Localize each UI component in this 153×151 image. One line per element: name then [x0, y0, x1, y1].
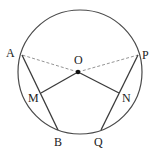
segment-OA	[22, 55, 78, 72]
segment-ON	[78, 72, 119, 93]
center-point-O	[76, 70, 81, 75]
label-Q: Q	[94, 135, 103, 149]
label-B: B	[54, 135, 62, 149]
chord-PQ	[101, 55, 138, 130]
label-A: A	[6, 46, 15, 60]
segment-OM	[41, 72, 78, 93]
label-O: O	[74, 53, 83, 67]
segment-OP	[78, 55, 138, 72]
label-M: M	[28, 91, 39, 105]
circle-geometry-diagram: A O P M N B Q	[0, 0, 153, 151]
label-N: N	[122, 91, 131, 105]
label-P: P	[142, 48, 149, 62]
